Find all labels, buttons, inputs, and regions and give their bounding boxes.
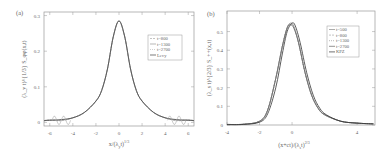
svg-text:0: 0 xyxy=(221,123,224,128)
svg-text:0: 0 xyxy=(118,131,121,136)
svg-text:-2: -2 xyxy=(94,131,99,136)
legend-b: t=500t=800t=1300t=2700KPZ xyxy=(327,26,359,57)
x-axis-label-b: (x+ct)/(λst)2/3 xyxy=(278,140,310,150)
y-axis-label-b: (λ_s t)^{2/3} S_++(x,t) xyxy=(206,40,213,96)
svg-text:t=800: t=800 xyxy=(336,33,347,38)
y-axis-ticks-a: 00.10.20.3 xyxy=(34,14,194,126)
svg-text:2: 2 xyxy=(141,131,144,136)
chart-panel-b: (b) 00.10.20.30.40.5 -4-204 t=500t=800t=… xyxy=(195,0,390,160)
svg-text:t=500: t=500 xyxy=(336,27,347,32)
svg-text:0.4: 0.4 xyxy=(217,48,224,53)
svg-text:t=800: t=800 xyxy=(157,36,168,41)
panel-label-a: (a) xyxy=(16,9,23,17)
plot-frame-a xyxy=(44,12,194,126)
svg-text:t=2700: t=2700 xyxy=(336,44,350,49)
svg-text:t=1300: t=1300 xyxy=(336,38,350,43)
svg-text:0.2: 0.2 xyxy=(217,86,224,91)
svg-text:0: 0 xyxy=(38,120,41,125)
svg-text:4: 4 xyxy=(356,130,359,135)
svg-text:0: 0 xyxy=(291,130,294,135)
svg-text:0.2: 0.2 xyxy=(34,49,41,54)
svg-text:6: 6 xyxy=(187,131,190,136)
svg-text:t=2700: t=2700 xyxy=(157,47,171,52)
svg-text:KPZ: KPZ xyxy=(336,49,345,54)
chart-b-svg: (b) 00.10.20.30.40.5 -4-204 t=500t=800t=… xyxy=(195,0,390,160)
x-axis-label-a: x/(λyt)1/3 xyxy=(109,139,129,149)
legend-a: t=800t=1300t=2700Levy xyxy=(148,35,182,60)
y-axis-label-a: (λ_y t)^{1/3} S_φφ(x,t) xyxy=(21,40,28,97)
svg-text:0.1: 0.1 xyxy=(217,104,224,109)
svg-text:-6: -6 xyxy=(48,131,53,136)
svg-text:0.1: 0.1 xyxy=(34,85,41,90)
panel-label-b: (b) xyxy=(207,10,215,18)
svg-text:Levy: Levy xyxy=(157,53,167,58)
svg-text:4: 4 xyxy=(164,131,167,136)
svg-text:-4: -4 xyxy=(71,131,76,136)
svg-text:0.5: 0.5 xyxy=(217,30,224,35)
svg-text:0.3: 0.3 xyxy=(34,14,41,19)
svg-text:t=1300: t=1300 xyxy=(157,42,171,47)
svg-text:-4: -4 xyxy=(225,130,230,135)
svg-text:0.3: 0.3 xyxy=(217,67,224,72)
chart-panel-a: (a) 00.10.20.3 -6-4-20246 t=800t=1300t=2… xyxy=(0,0,195,160)
svg-text:-2: -2 xyxy=(257,130,262,135)
chart-a-svg: (a) 00.10.20.3 -6-4-20246 t=800t=1300t=2… xyxy=(0,0,195,160)
